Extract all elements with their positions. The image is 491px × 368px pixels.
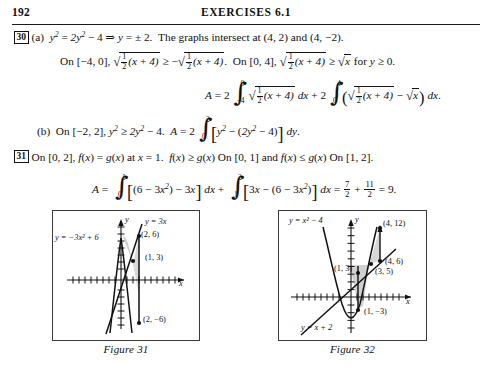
- interval-m2-2: [−2, 2],: [72, 125, 106, 137]
- on-word-6: On: [329, 151, 343, 163]
- figure-31-point-1-3-label: (1, 3): [145, 253, 163, 262]
- exercise-30-part-a-line-1: 30(a) y2 = 2y2 − 4 ⇒ y = ± 2. The graphs…: [14, 30, 344, 44]
- integral-sign: ∫0−4: [232, 82, 245, 104]
- point-2-m6-dot: [137, 321, 141, 325]
- figure-31-box: y = −3x² + 6 y = 3x (2, 6) (1, 3) (2, −6…: [52, 210, 200, 341]
- figure-31-parabola-label: y = −3x² + 6: [55, 233, 99, 242]
- at-word: at: [127, 151, 135, 163]
- figure-31-y-axis-label: y: [125, 215, 129, 224]
- exercise-number-31: 31: [14, 150, 29, 163]
- ex30a-point-2: (4, −2).: [310, 31, 344, 43]
- y-axis-arrow: [348, 219, 353, 226]
- figure-32-point-1-m3-label: (1, −3): [364, 307, 387, 316]
- shaded-region-upper: [369, 228, 380, 265]
- exercise-31-line-2: A = ∫10[(6 − 3x2) − 3x] dx + ∫21[3x − (6…: [92, 176, 396, 199]
- interval-1-2: [1, 2].: [346, 151, 373, 163]
- ex30a-point-1: (4, 2): [264, 31, 288, 43]
- point-4-12-dot: [378, 226, 382, 230]
- integral-sign: ∫10: [113, 176, 126, 198]
- on-word-4: On: [32, 151, 46, 163]
- figure-32-point-4-12-label: (4, 12): [383, 219, 405, 228]
- point-4-6-dot: [378, 259, 382, 263]
- figure-32-point-4-6-label: (4, 6): [385, 257, 403, 266]
- figure-32-x-axis-label: x: [406, 297, 410, 306]
- page-title: EXERCISES 6.1: [12, 6, 480, 18]
- figure-32-graph: [279, 211, 426, 340]
- interval-0-4: [0, 4],: [249, 55, 276, 67]
- y-axis-arrow: [118, 219, 123, 226]
- exercise-30-part-a-line-3: A = 2∫0−4 √12(x + 4) dx + 2∫40(√12(x + 4…: [205, 82, 441, 105]
- point-1-3-dot: [356, 271, 360, 275]
- figure-32-y-axis-label: y: [355, 215, 359, 224]
- point-1-3-dot: [131, 259, 135, 263]
- integral-sign: ∫21: [229, 176, 242, 198]
- figure-31-x-axis-label: x: [179, 279, 183, 288]
- figure-32-box: y = x² − 4 y = x + 2 (4, 12) (4, 6) (3, …: [278, 210, 427, 341]
- header-rule: [12, 24, 480, 25]
- shaded-region-right: [133, 236, 139, 296]
- figure-31-caption: Figure 31: [52, 343, 200, 355]
- interval-m4-0: [−4, 0],: [77, 55, 111, 67]
- figure-31-line-label: y = 3x: [145, 217, 166, 226]
- figure-32-point-1-3-label: (1, 3): [334, 264, 352, 273]
- point-1-m3-dot: [356, 308, 360, 312]
- interval-0-2: [0, 2],: [48, 151, 75, 163]
- and-word-2: and: [262, 151, 278, 163]
- figure-31-graph: [53, 211, 199, 340]
- on-word-2: On: [233, 55, 247, 67]
- figure-32-point-3-5-label: (3, 5): [375, 267, 393, 276]
- ex30a-and: and: [291, 31, 307, 43]
- integral-sign: ∫20: [197, 118, 210, 140]
- point-3-5-dot: [369, 262, 373, 266]
- integral-sign: ∫40: [328, 82, 341, 104]
- figure-32-caption: Figure 32: [278, 343, 427, 355]
- on-word-5: On: [218, 151, 232, 163]
- figure-31-point-2-m6-label: (2, −6): [143, 315, 166, 324]
- exercise-30-part-a-line-2: On [−4, 0], √12(x + 4) ≥ −√12(x + 4). On…: [60, 52, 395, 71]
- exercise-30-part-b-line-1: (b) On [−2, 2], y2 ≥ 2y2 − 4. A = 2∫20[y…: [37, 118, 300, 141]
- on-word-1: On: [60, 55, 74, 67]
- exercise-number-30: 30: [14, 31, 29, 44]
- for-word: for: [354, 55, 367, 67]
- ex30a-sentence: The graphs intersect at: [158, 31, 261, 43]
- figure-32-line-label: y = x + 2: [301, 323, 332, 332]
- figure-32-parabola-label: y = x² − 4: [289, 216, 323, 225]
- page-header: 192 EXERCISES 6.1: [12, 6, 480, 24]
- exercise-31-line-1: 31On [0, 2], f(x) = g(x) at x = 1. f(x) …: [14, 150, 373, 163]
- interval-0-1: [0, 1]: [234, 151, 258, 163]
- figure-31-point-2-6-label: (2, 6): [141, 230, 159, 239]
- on-word-3: On: [56, 125, 70, 137]
